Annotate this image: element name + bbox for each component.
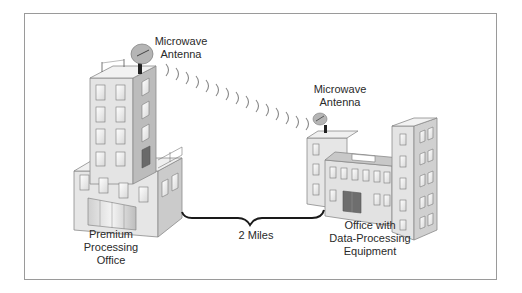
building-label-right: Office with Data-Processing Equipment bbox=[320, 219, 420, 258]
microwave-signal-arcs bbox=[166, 64, 309, 130]
antenna-label-right-line1: Microwave bbox=[307, 83, 373, 96]
right-microwave-antenna-icon bbox=[313, 113, 327, 133]
building-label-right-line3: Equipment bbox=[320, 245, 420, 258]
building-label-left-line2: Processing bbox=[76, 241, 146, 254]
antenna-label-right-line2: Antenna bbox=[307, 96, 373, 109]
building-label-right-line2: Data-Processing bbox=[320, 232, 420, 245]
building-label-left: Premium Processing Office bbox=[76, 228, 146, 267]
distance-text: 2 Miles bbox=[239, 229, 274, 241]
building-label-left-line1: Premium bbox=[76, 228, 146, 241]
premium-processing-office-building bbox=[74, 59, 182, 237]
building-label-left-line3: Office bbox=[76, 254, 146, 267]
antenna-label-left: Microwave Antenna bbox=[148, 35, 214, 61]
distance-label: 2 Miles bbox=[226, 229, 286, 242]
antenna-label-right: Microwave Antenna bbox=[307, 83, 373, 109]
building-label-right-line1: Office with bbox=[320, 219, 420, 232]
antenna-label-left-line2: Antenna bbox=[148, 48, 214, 61]
antenna-label-left-line1: Microwave bbox=[148, 35, 214, 48]
distance-brace bbox=[182, 210, 324, 225]
